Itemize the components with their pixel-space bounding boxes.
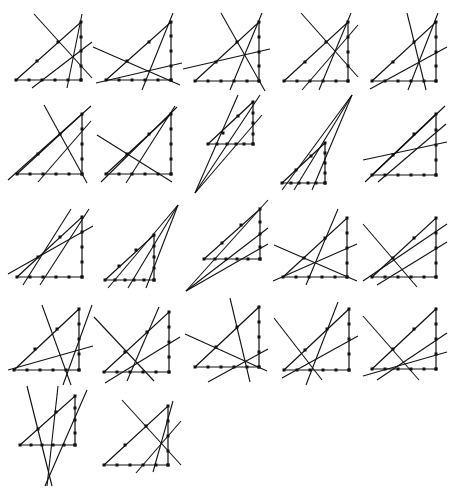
base-point — [15, 79, 18, 82]
side-point — [74, 444, 77, 447]
triangle-figure-6 — [8, 105, 91, 183]
hypotenuse-point — [324, 237, 327, 240]
base-point — [68, 276, 71, 279]
base-point — [371, 174, 374, 177]
side-point — [259, 233, 262, 236]
triangle-figure-1 — [15, 14, 93, 88]
side-point — [347, 36, 350, 39]
side-point — [435, 338, 438, 341]
side-point — [80, 50, 83, 53]
side-point — [167, 420, 170, 423]
base-point — [67, 79, 70, 82]
hypotenuse-point — [310, 155, 313, 158]
hypotenuse-point — [126, 60, 129, 63]
base-point — [203, 258, 206, 261]
side-point — [258, 336, 261, 339]
base-point — [194, 80, 197, 83]
base-point — [423, 80, 426, 83]
side-point — [435, 217, 438, 220]
side-point — [74, 395, 77, 398]
side-point — [435, 144, 438, 147]
hypotenuse-point — [392, 61, 395, 64]
base-point — [290, 182, 293, 185]
right-triangle — [284, 22, 348, 81]
side-point — [252, 112, 255, 115]
hypotenuse-point — [55, 411, 58, 414]
hypotenuse-point — [59, 133, 62, 136]
hypotenuse-point — [148, 41, 151, 44]
side-point — [346, 247, 349, 250]
transversal-line — [306, 302, 338, 385]
hypotenuse-point — [236, 41, 239, 44]
base-point — [371, 276, 374, 279]
base-point — [410, 174, 413, 177]
right-triangle — [283, 218, 347, 277]
base-point — [334, 276, 337, 279]
hypotenuse-point — [392, 154, 395, 157]
side-point — [81, 113, 84, 116]
right-triangle — [284, 309, 349, 370]
side-point — [167, 450, 170, 453]
hypotenuse-point — [222, 132, 225, 135]
base-point — [157, 173, 160, 176]
base-point — [26, 369, 29, 372]
side-point — [435, 36, 438, 39]
side-point — [435, 276, 438, 279]
side-point — [81, 173, 84, 176]
transversal-line — [230, 298, 250, 382]
base-point — [30, 444, 33, 447]
transversal-line — [108, 205, 178, 288]
transversal-line — [294, 95, 352, 190]
hypotenuse-point — [118, 265, 121, 268]
side-point — [259, 221, 262, 224]
side-point — [348, 323, 351, 326]
side-point — [153, 256, 156, 259]
side-point — [347, 65, 350, 68]
hypotenuse-point — [325, 41, 328, 44]
side-point — [81, 246, 84, 249]
hypotenuse-point — [57, 41, 60, 44]
side-point — [74, 432, 77, 435]
base-point — [283, 80, 286, 83]
base-point — [103, 371, 106, 374]
side-point — [435, 174, 438, 177]
side-point — [153, 234, 156, 237]
base-point — [307, 182, 310, 185]
side-point — [80, 79, 83, 82]
side-point — [252, 143, 255, 146]
side-point — [81, 261, 84, 264]
side-point — [252, 122, 255, 125]
base-point — [142, 371, 145, 374]
base-point — [55, 173, 58, 176]
hypotenuse-point — [148, 133, 151, 136]
base-point — [423, 174, 426, 177]
side-point — [78, 338, 81, 341]
hypotenuse-point — [413, 328, 416, 331]
side-point — [74, 419, 77, 422]
side-point — [435, 51, 438, 54]
side-point — [435, 262, 438, 265]
side-point — [167, 464, 170, 467]
side-point — [324, 172, 327, 175]
transversal-line — [186, 244, 268, 291]
side-point — [168, 356, 171, 359]
side-point — [74, 407, 77, 410]
side-point — [324, 162, 327, 165]
base-point — [423, 368, 426, 371]
base-point — [157, 79, 160, 82]
base-point — [384, 174, 387, 177]
base-point — [226, 143, 229, 146]
base-point — [410, 276, 413, 279]
right-triangle — [195, 22, 259, 81]
base-point — [52, 444, 55, 447]
hypotenuse-point — [36, 60, 39, 63]
triangle-figure-5 — [370, 13, 447, 90]
side-point — [435, 232, 438, 235]
base-point — [52, 369, 55, 372]
base-point — [116, 464, 119, 467]
base-point — [42, 173, 45, 176]
transversal-line — [363, 352, 447, 376]
base-point — [315, 182, 318, 185]
transversal-line — [142, 13, 173, 90]
side-point — [258, 351, 261, 354]
